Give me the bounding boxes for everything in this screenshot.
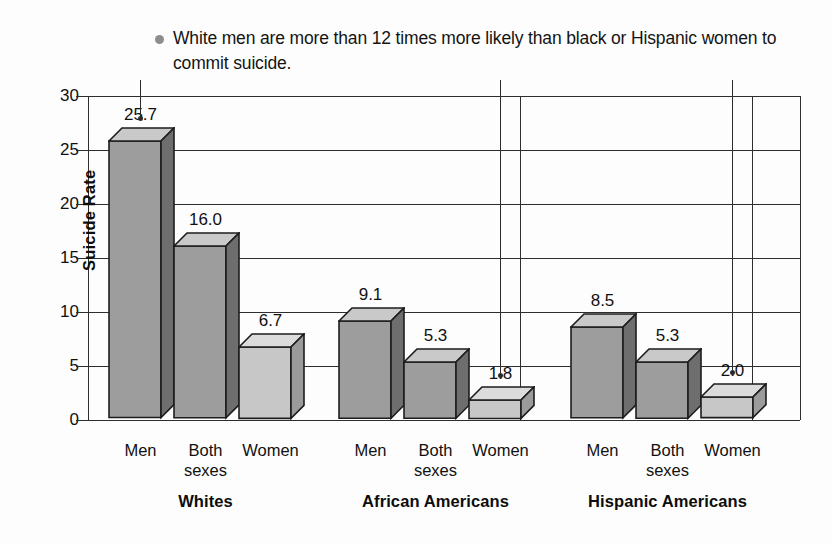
chart-page: White men are more than 12 times more li… [0, 0, 832, 544]
x-tick-label-line1: Both [646, 440, 689, 460]
bar-3d-shape [108, 127, 175, 420]
x-tick-label-women: Women [472, 440, 529, 460]
bar-value-label: 8.5 [591, 291, 615, 311]
bar-value-label: 5.3 [656, 326, 680, 346]
bar-3d-shape [403, 348, 470, 420]
gridline-20 [88, 204, 800, 205]
x-tick-label-both-sexes: Bothsexes [646, 440, 689, 480]
x-tick-label-men: Men [354, 440, 386, 460]
leader-line-1 [140, 80, 141, 116]
y-tick-mark-0 [76, 420, 88, 421]
gridline-25 [88, 150, 800, 151]
x-tick-label-line1: Both [184, 440, 227, 460]
bullet-icon [155, 35, 164, 44]
group-label-african-americans: African Americans [362, 492, 509, 511]
y-tick-mark-10 [76, 312, 88, 313]
bar-hispanic-americans-both-sexes[interactable] [635, 350, 687, 420]
bar-african-americans-women[interactable] [468, 388, 520, 420]
plot-area: 051015202530 25.716.06.79.15.31.88.55.32… [88, 96, 800, 420]
bar-african-americans-both-sexes[interactable] [403, 350, 455, 420]
caption-text: White men are more than 12 times more li… [173, 26, 805, 76]
bar-3d-shape [173, 232, 240, 420]
group-separator-1 [520, 96, 521, 420]
x-tick-label-both-sexes: Bothsexes [414, 440, 457, 480]
x-tick-label-line1: Both [414, 440, 457, 460]
x-tick-label-line2: sexes [414, 460, 457, 480]
leader-line-2 [500, 80, 501, 373]
leader-line-3 [732, 80, 733, 370]
y-tick-mark-25 [76, 150, 88, 151]
bar-value-label: 5.3 [424, 326, 448, 346]
bar-african-americans-men[interactable] [338, 309, 390, 420]
y-axis-label: Suicide Rate [80, 170, 99, 271]
bar-hispanic-americans-men[interactable] [570, 315, 622, 420]
group-separator-2 [752, 96, 753, 420]
bar-whites-men[interactable] [108, 129, 160, 420]
bar-hispanic-americans-women[interactable] [700, 385, 752, 420]
bar-3d-shape [635, 348, 702, 420]
leader-dot-3 [730, 370, 735, 375]
leader-dot-2 [498, 373, 503, 378]
x-tick-label-line2: sexes [184, 460, 227, 480]
bar-whites-both-sexes[interactable] [173, 234, 225, 420]
bar-value-label: 6.7 [259, 311, 283, 331]
bar-3d-shape [468, 386, 535, 420]
chart-caption: White men are more than 12 times more li… [155, 26, 805, 76]
bar-3d-shape [338, 307, 405, 420]
y-tick-mark-30 [76, 96, 88, 97]
group-label-whites: Whites [178, 492, 233, 511]
bar-3d-shape [700, 383, 767, 420]
x-tick-label-men: Men [586, 440, 618, 460]
x-tick-label-men: Men [124, 440, 156, 460]
gridline-30 [88, 96, 800, 97]
x-tick-label-women: Women [704, 440, 761, 460]
bar-value-label: 16.0 [189, 210, 222, 230]
group-label-hispanic-americans: Hispanic Americans [588, 492, 747, 511]
gridline-0 [88, 420, 800, 421]
bar-3d-shape [238, 333, 305, 420]
bar-3d-shape [570, 313, 637, 420]
plot-right-border [800, 96, 801, 420]
bar-value-label: 9.1 [359, 285, 383, 305]
bar-whites-women[interactable] [238, 335, 290, 420]
x-tick-label-line2: sexes [646, 460, 689, 480]
x-tick-label-both-sexes: Bothsexes [184, 440, 227, 480]
leader-dot-1 [138, 116, 143, 121]
y-tick-mark-5 [76, 366, 88, 367]
x-tick-label-women: Women [242, 440, 299, 460]
